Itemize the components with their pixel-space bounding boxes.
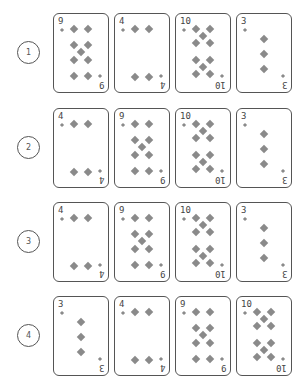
diamond-icon (260, 254, 268, 262)
diamond-icon (98, 74, 102, 78)
diamond-icon (199, 252, 207, 260)
diamond-icon (199, 158, 207, 166)
diamond-icon (206, 308, 214, 316)
diamond-icon (220, 169, 224, 173)
diamond-icon (260, 35, 268, 43)
diamond-icon (192, 339, 200, 347)
playing-card[interactable]: 33 (236, 108, 292, 188)
playing-card[interactable]: 99 (114, 108, 170, 188)
card-rank-bottom: 9 (160, 269, 165, 278)
diamond-icon (206, 165, 214, 173)
diamond-icon (131, 73, 139, 81)
diamond-icon (145, 151, 153, 159)
playing-card[interactable]: 1010 (175, 108, 231, 188)
card-rank-top: 3 (241, 17, 246, 26)
diamond-icon (281, 169, 285, 173)
diamond-icon (131, 245, 139, 253)
diamond-icon (281, 263, 285, 267)
diamond-icon (84, 214, 92, 222)
diamond-icon (84, 41, 92, 49)
card-rank-top: 3 (241, 112, 246, 121)
diamond-icon (159, 263, 163, 267)
diamond-icon (206, 25, 214, 33)
diamond-icon (60, 217, 64, 221)
card-rank-bottom: 4 (160, 80, 165, 89)
diamond-icon (145, 356, 153, 364)
card-rank-top: 9 (180, 300, 185, 309)
diamond-icon (192, 355, 200, 363)
diamond-icon (192, 70, 200, 78)
playing-card[interactable]: 99 (114, 202, 170, 282)
playing-card[interactable]: 44 (53, 108, 109, 188)
diamond-icon (199, 221, 207, 229)
diamond-icon (192, 245, 200, 253)
diamond-icon (121, 311, 125, 315)
diamond-icon (192, 324, 200, 332)
playing-card[interactable]: 33 (236, 202, 292, 282)
playing-card[interactable]: 44 (53, 202, 109, 282)
diamond-icon (84, 120, 92, 128)
diamond-icon (206, 228, 214, 236)
diamond-icon (206, 259, 214, 267)
diamond-icon (121, 123, 125, 127)
playing-card[interactable]: 44 (114, 296, 170, 376)
playing-card[interactable]: 99 (175, 296, 231, 376)
diamond-icon (145, 308, 153, 316)
diamond-icon (159, 169, 163, 173)
diamond-icon (145, 230, 153, 238)
card-rank-bottom: 10 (276, 363, 287, 372)
diamond-icon (243, 217, 247, 221)
card-rank-bottom: 3 (282, 175, 287, 184)
diamond-icon (131, 230, 139, 238)
diamond-icon (253, 308, 261, 316)
playing-card[interactable]: 44 (114, 13, 170, 93)
card-rank-top: 3 (241, 206, 246, 215)
diamond-icon (192, 308, 200, 316)
diamond-icon (260, 130, 268, 138)
playing-card[interactable]: 33 (236, 13, 292, 93)
option-row-1: 19944101033 (0, 13, 307, 93)
diamond-icon (260, 65, 268, 73)
option-row-4: 43344991010 (0, 296, 307, 376)
option-button-1[interactable]: 1 (17, 41, 40, 64)
diamond-icon (138, 237, 146, 245)
option-button-3[interactable]: 3 (17, 230, 40, 253)
card-rank-top: 4 (119, 300, 124, 309)
diamond-icon (192, 39, 200, 47)
diamond-icon (70, 120, 78, 128)
diamond-icon (159, 74, 163, 78)
playing-card[interactable]: 1010 (175, 13, 231, 93)
card-rank-bottom: 9 (221, 363, 226, 372)
diamond-icon (192, 214, 200, 222)
diamond-icon (131, 167, 139, 175)
diamond-icon (281, 74, 285, 78)
diamond-icon (260, 50, 268, 58)
diamond-icon (192, 165, 200, 173)
playing-card[interactable]: 1010 (175, 202, 231, 282)
diamond-icon (70, 41, 78, 49)
diamond-icon (131, 261, 139, 269)
playing-card[interactable]: 33 (53, 296, 109, 376)
playing-card[interactable]: 1010 (236, 296, 292, 376)
diamond-icon (121, 28, 125, 32)
diamond-icon (206, 39, 214, 47)
diamond-icon (131, 136, 139, 144)
card-rank-top: 9 (119, 112, 124, 121)
option-button-2[interactable]: 2 (17, 136, 40, 159)
diamond-icon (253, 353, 261, 361)
option-row-2: 24499101033 (0, 108, 307, 188)
playing-card[interactable]: 99 (53, 13, 109, 93)
diamond-icon (131, 214, 139, 222)
diamond-icon (98, 357, 102, 361)
card-rank-bottom: 10 (215, 80, 226, 89)
diamond-icon (199, 331, 207, 339)
diamond-icon (70, 214, 78, 222)
diamond-icon (131, 25, 139, 33)
card-rank-bottom: 4 (99, 269, 104, 278)
diamond-icon (243, 28, 247, 32)
diamond-icon (60, 28, 64, 32)
diamond-icon (145, 136, 153, 144)
option-button-4[interactable]: 4 (17, 324, 40, 347)
diamond-icon (84, 262, 92, 270)
diamond-icon (206, 120, 214, 128)
